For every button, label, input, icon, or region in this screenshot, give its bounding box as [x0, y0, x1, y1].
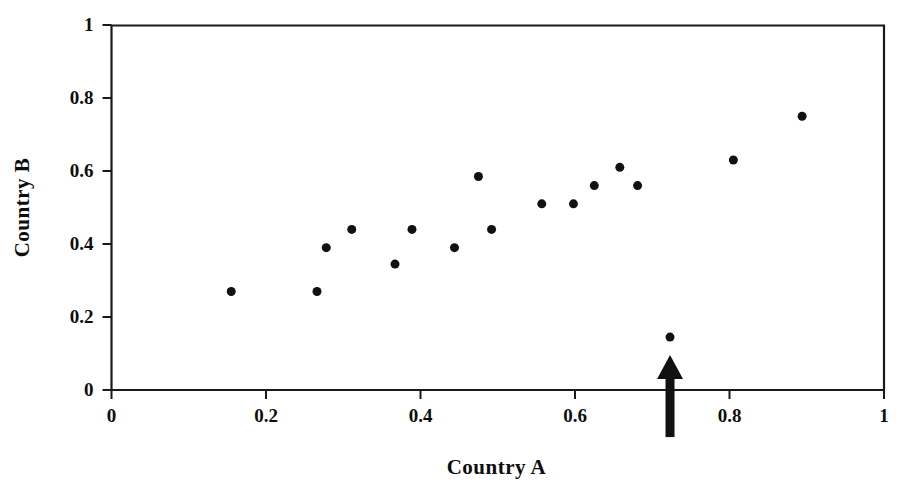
- y-tick-label-0: 0: [0, 379, 94, 401]
- data-point: [312, 287, 321, 296]
- y-tick-label-2: 0.4: [0, 233, 94, 255]
- data-point: [450, 243, 459, 252]
- plot-canvas: [0, 0, 905, 501]
- data-point: [487, 225, 496, 234]
- arrow-head: [657, 355, 683, 379]
- data-point-group: [227, 112, 807, 342]
- arrow-shaft: [666, 377, 675, 437]
- scatter-plot-figure: Country A Country B 00.20.40.60.81 00.20…: [0, 0, 905, 501]
- data-point: [322, 243, 331, 252]
- data-point: [391, 260, 400, 269]
- x-axis-title: Country A: [0, 455, 905, 480]
- y-tick-label-3: 0.6: [0, 160, 94, 182]
- data-point: [347, 225, 356, 234]
- data-point: [227, 287, 236, 296]
- data-point: [590, 181, 599, 190]
- y-tick-label-1: 0.2: [0, 306, 94, 328]
- data-point: [537, 199, 546, 208]
- data-point: [569, 199, 578, 208]
- data-point: [729, 156, 738, 165]
- tick-marks: [103, 25, 885, 399]
- y-tick-label-4: 0.8: [0, 87, 94, 109]
- y-tick-label-5: 1: [0, 14, 94, 36]
- data-point: [633, 181, 642, 190]
- axis-lines: [111, 25, 885, 390]
- annotation-layer: [657, 355, 683, 437]
- x-tick-label-4: 0.8: [718, 405, 742, 427]
- data-point: [615, 163, 624, 172]
- x-tick-label-0: 0: [107, 405, 117, 427]
- x-tick-label-1: 0.2: [254, 405, 278, 427]
- x-tick-label-2: 0.4: [409, 405, 433, 427]
- y-axis-title: Country B: [10, 25, 35, 390]
- x-tick-label-5: 1: [879, 405, 889, 427]
- annotation-up-arrow: [657, 355, 683, 437]
- data-point: [666, 333, 675, 342]
- data-point: [408, 225, 417, 234]
- data-point: [474, 172, 483, 181]
- data-point: [798, 112, 807, 121]
- x-tick-label-3: 0.6: [563, 405, 587, 427]
